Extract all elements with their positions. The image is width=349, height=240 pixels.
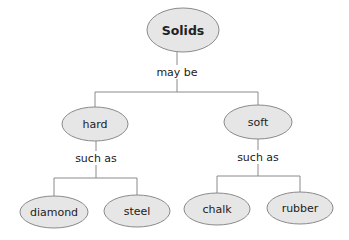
node-diamond: diamond bbox=[20, 196, 88, 228]
svg-text:such as: such as bbox=[237, 151, 279, 164]
node-hard: hard bbox=[62, 107, 128, 141]
svg-text:steel: steel bbox=[124, 205, 151, 218]
node-rubber: rubber bbox=[267, 192, 333, 224]
link-label-soft-such-as: such as bbox=[236, 150, 280, 164]
node-chalk: chalk bbox=[184, 193, 250, 225]
node-solids: Solids bbox=[147, 8, 219, 52]
concept-map: may be such as such as Solids hard soft … bbox=[0, 0, 349, 240]
link-label-may-be: may be bbox=[155, 65, 199, 79]
svg-text:soft: soft bbox=[248, 116, 269, 129]
svg-text:chalk: chalk bbox=[202, 203, 232, 216]
svg-text:such as: such as bbox=[75, 152, 117, 165]
node-soft: soft bbox=[224, 105, 292, 139]
svg-text:rubber: rubber bbox=[282, 202, 319, 215]
svg-text:hard: hard bbox=[82, 118, 107, 131]
node-steel: steel bbox=[104, 195, 170, 227]
link-label-hard-such-as: such as bbox=[74, 151, 118, 165]
svg-text:Solids: Solids bbox=[162, 23, 205, 38]
svg-text:may be: may be bbox=[156, 66, 197, 79]
svg-text:diamond: diamond bbox=[30, 206, 78, 219]
